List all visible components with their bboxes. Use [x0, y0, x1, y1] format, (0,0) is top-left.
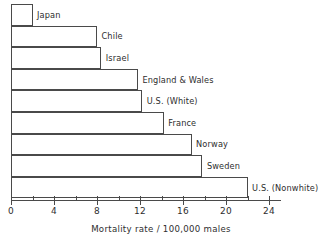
bar-england-wales [11, 69, 138, 91]
x-tick-minor [248, 196, 249, 201]
x-tick-major [140, 196, 141, 205]
x-tick-label-20: 20 [220, 206, 232, 216]
plot-area: Japan Chile Israel England & Wales U.S. … [0, 0, 322, 205]
bar-japan [11, 4, 33, 26]
x-tick-label-16: 16 [177, 206, 189, 216]
x-tick-minor [33, 196, 34, 201]
x-axis-title: Mortality rate / 100,000 males [0, 224, 322, 234]
bar-label-norway: Norway [196, 139, 228, 149]
bar-label-israel: Israel [106, 53, 129, 63]
bar-label-england-wales: England & Wales [142, 75, 213, 85]
x-tick-minor [119, 196, 120, 201]
x-tick-label-4: 4 [51, 206, 57, 216]
x-tick-label-0: 0 [8, 206, 14, 216]
bar-sweden [11, 155, 202, 177]
bar-israel [11, 47, 101, 69]
bar-label-us-white: U.S. (White) [147, 96, 198, 106]
bar-us-nonwhite [11, 177, 248, 199]
x-tick-major [269, 196, 270, 205]
bar-label-japan: Japan [37, 10, 61, 20]
bar-label-france: France [168, 118, 196, 128]
y-axis-line [11, 4, 12, 201]
bar-france [11, 112, 164, 134]
x-tick-minor [205, 196, 206, 201]
bar-label-us-nonwhite: U.S. (Nonwhite) [252, 183, 318, 193]
x-axis-line [11, 200, 281, 201]
bar-label-chile: Chile [102, 31, 123, 41]
bar-norway [11, 134, 192, 156]
x-tick-major [54, 196, 55, 205]
bar-chile [11, 26, 97, 48]
x-tick-label-24: 24 [263, 206, 275, 216]
bar-label-sweden: Sweden [207, 161, 240, 171]
x-tick-minor [76, 196, 77, 201]
x-tick-major [183, 196, 184, 205]
mortality-bar-chart: Japan Chile Israel England & Wales U.S. … [0, 0, 322, 243]
bar-us-white [11, 90, 142, 112]
x-tick-major [226, 196, 227, 205]
x-tick-major [11, 196, 12, 205]
x-tick-major [97, 196, 98, 205]
x-tick-minor [162, 196, 163, 201]
x-tick-label-8: 8 [94, 206, 100, 216]
x-tick-label-12: 12 [134, 206, 146, 216]
